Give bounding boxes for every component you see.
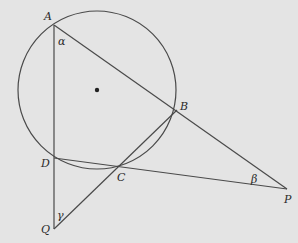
circle-center-dot [95, 88, 99, 92]
segment-QB [54, 110, 177, 229]
point-label-Q: Q [41, 223, 50, 236]
segment-AP [54, 25, 287, 189]
angle-label-gamma: γ [57, 209, 64, 222]
geometry-diagram: A B C D P Q α β γ [0, 0, 298, 243]
point-label-C: C [117, 171, 126, 184]
point-label-B: B [179, 100, 188, 113]
point-label-D: D [40, 157, 50, 170]
angle-label-alpha: α [58, 35, 66, 48]
angle-label-beta: β [250, 173, 257, 186]
point-label-A: A [43, 10, 52, 23]
point-label-P: P [283, 193, 292, 206]
